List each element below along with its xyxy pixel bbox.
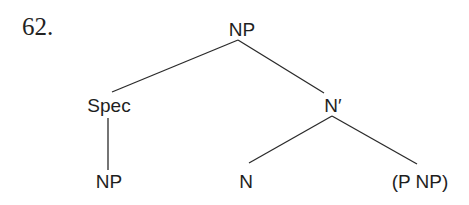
node-spec: Spec — [87, 96, 130, 115]
edge-np-to-spec — [112, 40, 238, 92]
edge-np-to-nbar — [238, 40, 324, 93]
syntax-tree-figure: 62. NP Spec N′ NP N (P NP) — [0, 0, 469, 205]
edge-nbar-to-n — [249, 116, 332, 163]
node-spec-np: NP — [96, 172, 122, 191]
edge-nbar-to-pnp — [332, 116, 417, 164]
node-complement-pnp: (P NP) — [392, 172, 449, 191]
node-n-head: N — [239, 172, 253, 191]
node-root-np: NP — [229, 20, 255, 39]
node-n-bar: N′ — [324, 96, 341, 115]
